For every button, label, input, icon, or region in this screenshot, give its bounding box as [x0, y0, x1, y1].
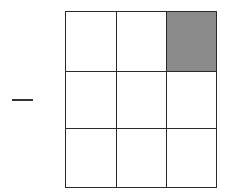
- three-by-three-grid: [65, 11, 216, 187]
- empty-cell: [65, 71, 117, 129]
- empty-cell: [116, 71, 167, 129]
- empty-cell: [116, 128, 167, 188]
- shaded-cell: [166, 11, 217, 72]
- empty-cell: [65, 128, 117, 188]
- empty-cell: [166, 128, 217, 188]
- empty-cell: [116, 11, 167, 72]
- empty-cell: [65, 11, 117, 72]
- empty-cell: [166, 71, 217, 129]
- minus-sign: [12, 99, 33, 101]
